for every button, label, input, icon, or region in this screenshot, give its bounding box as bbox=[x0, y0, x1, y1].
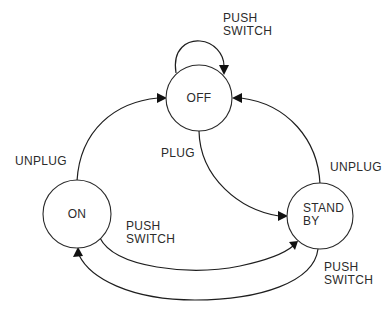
label-off-to-standby: PLUG bbox=[161, 146, 195, 160]
label-standby-to-on-line2: SWITCH bbox=[324, 273, 373, 287]
state-on: ON bbox=[43, 180, 111, 248]
edge-off-to-standby bbox=[199, 131, 279, 216]
arrowhead-standby-to-off bbox=[232, 93, 242, 103]
label-standby-to-on-line1: PUSH bbox=[324, 260, 359, 274]
state-diagram: OFF ON STAND BY PUSH SWITCH UNPLUG UNPLU… bbox=[0, 0, 390, 312]
label-on-to-standby-line2: SWITCH bbox=[126, 232, 175, 246]
state-standby-label-line1: STAND bbox=[303, 201, 344, 215]
state-off-label: OFF bbox=[187, 91, 212, 105]
state-standby-label-line2: BY bbox=[303, 214, 320, 228]
label-off-self-line2: SWITCH bbox=[223, 24, 272, 38]
edge-standby-to-on bbox=[79, 249, 318, 300]
label-on-to-off: UNPLUG bbox=[15, 154, 67, 168]
label-on-to-standby-line1: PUSH bbox=[126, 219, 161, 233]
state-standby: STAND BY bbox=[287, 183, 353, 249]
state-on-label: ON bbox=[68, 207, 87, 221]
edge-on-to-off bbox=[77, 98, 158, 181]
edge-standby-to-off bbox=[241, 98, 320, 184]
label-off-self-line1: PUSH bbox=[223, 11, 258, 25]
label-standby-to-off: UNPLUG bbox=[330, 160, 382, 174]
state-off: OFF bbox=[166, 65, 232, 131]
